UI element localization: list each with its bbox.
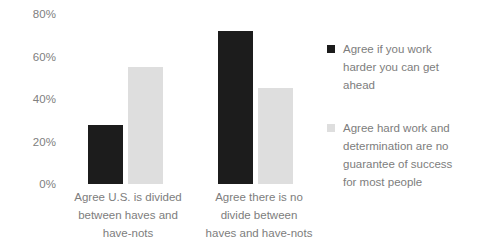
bar-series1-cat1 <box>88 125 123 185</box>
legend-label-series-1-line-2: harder you can get <box>343 58 485 76</box>
bar-chart: 0% 20% 40% 60% 80% Agree U.S. is divided… <box>0 0 489 252</box>
bar-series2-cat1 <box>128 67 163 184</box>
x-label-category-2-line-2: divide between <box>187 206 331 224</box>
x-label-category-1: Agree U.S. is divided between haves and … <box>56 188 200 242</box>
x-label-category-2: Agree there is no divide between haves a… <box>187 188 331 242</box>
legend-label-series-2-line-4: for most people <box>343 173 485 191</box>
legend-label-series-2-line-3: guarantee of success <box>343 155 485 173</box>
x-label-category-2-line-3: haves and have-nots <box>187 224 331 242</box>
legend-item-series-1[interactable]: Agree if you work harder you can get ahe… <box>327 40 485 94</box>
legend: Agree if you work harder you can get ahe… <box>327 40 485 211</box>
x-label-category-1-line-2: between haves and <box>56 206 200 224</box>
legend-label-series-2-line-2: determination are no <box>343 137 485 155</box>
legend-label-series-1-line-1: Agree if you work <box>343 40 485 58</box>
x-label-category-2-line-1: Agree there is no <box>187 188 331 206</box>
bar-series1-cat2 <box>218 31 253 184</box>
legend-label-series-2-line-1: Agree hard work and <box>343 119 485 137</box>
y-axis: 0% 20% 40% 60% 80% <box>2 14 56 184</box>
x-label-category-1-line-1: Agree U.S. is divided <box>56 188 200 206</box>
legend-item-series-2[interactable]: Agree hard work and determination are no… <box>327 119 485 191</box>
y-tick-20: 20% <box>33 136 56 148</box>
y-tick-60: 60% <box>33 51 56 63</box>
y-tick-40: 40% <box>33 93 56 105</box>
legend-label-series-1-line-3: ahead <box>343 76 485 94</box>
x-axis-labels: Agree U.S. is divided between haves and … <box>0 188 330 250</box>
bars-layer <box>60 14 310 184</box>
legend-label-series-1: Agree if you work harder you can get ahe… <box>343 40 485 94</box>
bar-series2-cat2 <box>258 88 293 184</box>
legend-swatch-light-icon <box>327 124 335 132</box>
y-tick-80: 80% <box>33 8 56 20</box>
x-label-category-1-line-3: have-nots <box>56 224 200 242</box>
legend-label-series-2: Agree hard work and determination are no… <box>343 119 485 191</box>
plot-area: 0% 20% 40% 60% 80% <box>60 14 310 184</box>
legend-swatch-dark-icon <box>327 45 335 53</box>
